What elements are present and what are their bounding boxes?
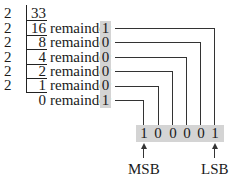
remainder-digit: 0 — [100, 35, 111, 50]
quotient: 0 — [24, 93, 46, 108]
connector-line — [200, 42, 201, 125]
connector-line — [186, 57, 187, 125]
connector-line — [214, 28, 215, 125]
binary-digit: 0 — [181, 126, 193, 141]
binary-digit: 0 — [195, 126, 207, 141]
msb-label: MSB — [128, 162, 160, 177]
division-bracket — [26, 77, 47, 93]
remainder-digit: 0 — [100, 78, 111, 93]
lsb-label: LSB — [201, 162, 229, 177]
remainder-digit: 1 — [100, 93, 111, 108]
lsb-arrow-shaft — [214, 148, 215, 158]
connector-line — [115, 100, 144, 101]
binary-digit: 0 — [152, 126, 164, 141]
connector-line — [115, 57, 187, 58]
divisor: 2 — [4, 35, 12, 50]
connector-line — [172, 71, 173, 125]
connector-line — [115, 42, 201, 43]
divisor: 2 — [4, 6, 12, 21]
division-bracket — [26, 5, 47, 21]
divisor: 2 — [4, 78, 12, 93]
division-bracket — [26, 34, 47, 50]
binary-digit: 0 — [167, 126, 179, 141]
binary-digit: 1 — [138, 126, 150, 141]
connector-line — [158, 86, 159, 125]
connector-line — [115, 86, 159, 87]
connector-line — [115, 28, 215, 29]
binary-digit: 1 — [209, 126, 221, 141]
msb-arrow-shaft — [143, 148, 144, 158]
connector-line — [143, 100, 144, 125]
connector-line — [115, 71, 173, 72]
